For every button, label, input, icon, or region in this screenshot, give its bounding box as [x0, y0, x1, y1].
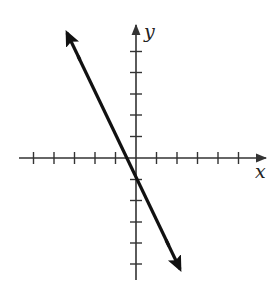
line-arrow-down-right — [166, 240, 180, 269]
x-axis-label: x — [255, 160, 266, 182]
coordinate-plane: y x — [0, 0, 277, 290]
line-arrow-up-left — [67, 33, 80, 60]
plotted-line — [78, 56, 169, 246]
y-axis-label: y — [143, 20, 155, 42]
